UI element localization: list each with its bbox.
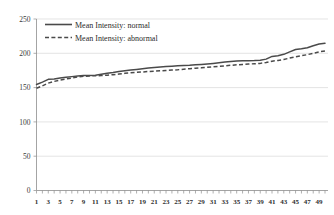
- x-tick-label: 39: [257, 198, 265, 206]
- x-tick-label: 7: [70, 198, 74, 206]
- x-tick-label: 47: [304, 198, 312, 206]
- x-tick-label: 3: [47, 198, 51, 206]
- x-tick-label: 11: [92, 198, 99, 206]
- x-tick-label: 25: [174, 198, 182, 206]
- x-tick-label: 9: [82, 198, 86, 206]
- line-chart: 050100150200250 135791113151719212325272…: [0, 0, 334, 215]
- x-tick-label: 29: [198, 198, 206, 206]
- x-tick-label: 41: [269, 198, 277, 206]
- x-tick-label: 1: [35, 198, 39, 206]
- y-tick-label: 50: [23, 152, 31, 161]
- legend-label-normal: Mean Intensity: normal: [75, 21, 151, 30]
- x-tick-label: 35: [233, 198, 241, 206]
- legend-label-abnormal: Mean Intensity: abnormal: [75, 34, 158, 43]
- y-tick-label: 150: [19, 83, 31, 92]
- x-tick-label: 31: [210, 198, 218, 206]
- chart-background: [0, 0, 334, 215]
- chart-svg: 050100150200250 135791113151719212325272…: [0, 0, 334, 215]
- x-tick-label: 27: [186, 198, 194, 206]
- x-tick-label: 13: [104, 198, 112, 206]
- x-tick-label: 5: [58, 198, 62, 206]
- x-tick-label: 17: [127, 198, 135, 206]
- x-tick-label: 19: [139, 198, 147, 206]
- x-tick-label: 33: [221, 198, 229, 206]
- x-tick-label: 43: [280, 198, 288, 206]
- x-tick-label: 21: [151, 198, 159, 206]
- x-tick-label: 15: [115, 198, 123, 206]
- y-tick-label: 250: [19, 15, 31, 24]
- y-tick-label: 0: [27, 186, 31, 195]
- x-tick-label: 23: [163, 198, 171, 206]
- y-tick-label: 200: [19, 49, 31, 58]
- y-tick-label: 100: [19, 118, 31, 127]
- x-tick-label: 49: [316, 198, 324, 206]
- x-tick-label: 45: [292, 198, 300, 206]
- x-tick-label: 37: [245, 198, 253, 206]
